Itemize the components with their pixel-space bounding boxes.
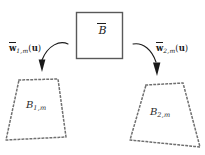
mapping-left-subscript: 1,m xyxy=(16,47,28,54)
arrow-head-right xyxy=(153,63,160,77)
arrow-path-right xyxy=(133,44,156,62)
arrow-path-left xyxy=(42,43,68,60)
source-box-label: B xyxy=(0,25,205,36)
region-label-left: B1,m xyxy=(26,100,46,111)
figure-canvas: B w1,m(u) w2,m(u) B1,m B2,m xyxy=(0,0,205,155)
mapping-left-symbol: w xyxy=(9,44,16,53)
arrow-head-left xyxy=(39,60,46,73)
mapping-right-subscript: 2,m xyxy=(163,47,175,54)
mapping-label-left: w1,m(u) xyxy=(9,44,41,54)
source-box-label-text: B xyxy=(98,25,107,36)
region-right-subscript: 2,m xyxy=(157,111,170,119)
mapping-right-close-paren: ) xyxy=(185,43,188,53)
mapping-label-right: w2,m(u) xyxy=(156,44,188,54)
region-left-subscript: 1,m xyxy=(33,104,46,112)
region-label-right: B2,m xyxy=(150,107,170,118)
mapping-right-symbol: w xyxy=(156,44,163,53)
mapping-left-close-paren: ) xyxy=(38,43,41,53)
